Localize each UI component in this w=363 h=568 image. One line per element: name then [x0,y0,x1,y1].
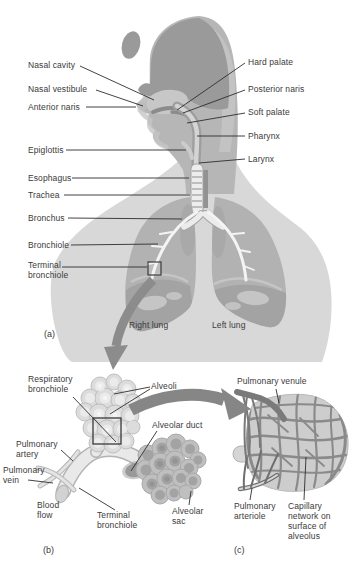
label-nasal-cavity: Nasal cavity [28,60,75,70]
label-posterior-naris: Posterior naris [248,84,304,94]
leader-nasal-vestibule [96,90,143,106]
alveoli-cluster [76,374,141,453]
trachea-tube [191,164,203,218]
hair-front-tuft [119,29,144,61]
alveolar-sac-cluster [136,434,206,504]
panel-c-tag: (c) [234,545,245,555]
respiratory-system-diagram: Nasal cavity Nasal vestibule Anterior na… [0,0,363,568]
leader-terminal-bronchiole-b [79,488,115,510]
label-alveolar-duct: Alveolar duct [152,420,202,430]
label-alveolar-sac: Alveolar sac [172,506,204,526]
label-esophagus: Esophagus [28,173,71,183]
label-pulmonary-artery: Pulmonary artery [16,439,58,459]
label-trachea: Trachea [28,190,60,200]
label-alveoli: Alveoli [151,381,177,391]
leader-pulmonary-artery [61,450,73,461]
label-pulmonary-vein: Pulmonary vein [3,465,45,485]
label-pulmonary-arteriole: Pulmonary arteriole [234,501,276,521]
panel-b-tag: (b) [43,545,54,555]
zoom-arrow-b-to-c [131,388,251,420]
label-nasal-vestibule: Nasal vestibule [28,84,87,94]
label-terminal-bronchiole-a: Terminal bronchiole [28,260,68,280]
terminal-bronchiole-inspect-box [148,262,161,275]
label-right-lung: Right lung [129,320,168,330]
label-terminal-bronchiole-b: Terminal bronchiole [97,510,137,530]
leader-nasal-cavity [80,66,154,100]
label-epiglottis: Epiglottis [28,145,64,155]
leader-pulmonary-arteriole [250,488,252,500]
capillary-alveolus [233,392,348,491]
label-hard-palate: Hard palate [248,57,293,67]
label-respiratory-bronchiole: Respiratory bronchiole [28,374,73,394]
label-pharynx: Pharynx [248,131,280,141]
label-larynx: Larynx [248,154,274,164]
label-soft-palate: Soft palate [248,107,290,117]
label-anterior-naris: Anterior naris [28,102,80,112]
label-pulmonary-venule: Pulmonary venule [237,376,307,386]
label-left-lung: Left lung [212,320,246,330]
label-bronchus: Bronchus [28,213,65,223]
label-bronchiole: Bronchiole [28,240,69,250]
label-blood-flow: Blood flow [37,500,59,520]
label-capillary-network: Capillary network on surface of alveolus [288,501,331,541]
panel-a-tag: (a) [44,329,55,339]
